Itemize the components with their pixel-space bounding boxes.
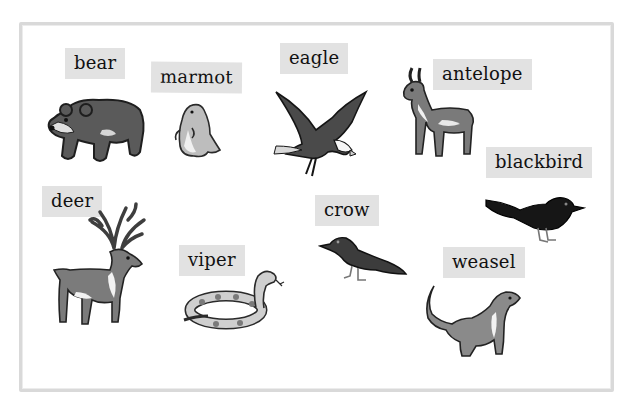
viper-illustration (182, 266, 286, 330)
crow-illustration (318, 232, 408, 288)
label-bear: bear (65, 48, 125, 79)
bear-illustration (44, 92, 148, 167)
deer-illustration (52, 198, 156, 332)
eagle-illustration (272, 88, 372, 183)
label-marmot: marmot (151, 62, 242, 94)
label-blackbird: blackbird (486, 147, 592, 178)
weasel-illustration (424, 284, 526, 360)
label-crow: crow (315, 195, 379, 226)
label-eagle: eagle (280, 43, 348, 74)
blackbird-illustration (484, 192, 588, 246)
label-weasel: weasel (443, 247, 525, 278)
marmot-illustration (170, 100, 226, 162)
antelope-illustration (398, 66, 478, 162)
